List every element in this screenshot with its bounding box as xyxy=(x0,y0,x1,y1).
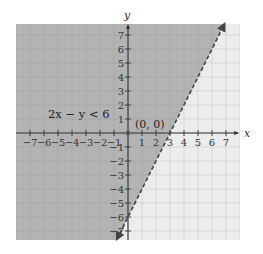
x-tick-label: 1 xyxy=(139,137,145,148)
x-axis-label: x xyxy=(244,127,251,140)
x-tick-label: −6 xyxy=(37,137,52,148)
y-tick-label: 3 xyxy=(118,86,124,97)
y-axis-label: y xyxy=(123,9,131,22)
x-tick-label: 2 xyxy=(153,137,159,148)
x-tick-label: 5 xyxy=(195,137,201,148)
x-tick-label: −4 xyxy=(65,137,80,148)
y-tick-label: −1 xyxy=(109,142,124,153)
y-tick-label: −4 xyxy=(109,184,124,195)
inequality-graph: −7−6−5−4−3−2−11234567−7−6−5−4−3−2−112345… xyxy=(0,0,263,254)
x-tick-label: −5 xyxy=(51,137,66,148)
y-tick-label: 6 xyxy=(118,44,124,55)
test-point-origin xyxy=(126,131,130,135)
x-tick-label: −2 xyxy=(93,137,108,148)
x-tick-label: −7 xyxy=(23,137,38,148)
y-tick-label: −3 xyxy=(109,170,124,181)
y-tick-label: −6 xyxy=(109,212,124,223)
inequality-label: 2x − y < 6 xyxy=(48,107,110,121)
y-tick-label: 5 xyxy=(118,58,124,69)
x-tick-label: 4 xyxy=(181,137,187,148)
y-tick-label: 4 xyxy=(118,72,124,83)
y-tick-label: 1 xyxy=(118,114,124,125)
y-tick-label: −2 xyxy=(109,156,124,167)
test-point-label: (0, 0) xyxy=(135,118,165,131)
x-tick-label: 6 xyxy=(209,137,215,148)
x-tick-label: −3 xyxy=(79,137,94,148)
y-tick-label: 2 xyxy=(118,100,124,111)
x-tick-label: 7 xyxy=(223,137,229,148)
y-tick-label: −5 xyxy=(109,198,124,209)
y-tick-label: 7 xyxy=(118,30,124,41)
